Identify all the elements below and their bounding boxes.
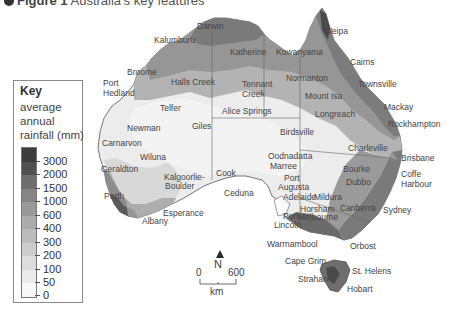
legend-swatch <box>22 189 36 203</box>
place-label: Cook <box>216 169 236 178</box>
place-label: Orbost <box>350 242 376 251</box>
place-label: Melbourne <box>298 213 338 222</box>
place-label: Cairns <box>350 58 375 67</box>
place-label: Harbour <box>401 180 432 189</box>
legend-swatch <box>22 162 36 176</box>
legend-tick-label: 100 <box>43 263 61 275</box>
place-label: Dubbo <box>346 178 371 187</box>
place-label: Hobart <box>347 285 373 294</box>
place-label: Kowanyama <box>276 48 323 57</box>
legend-tick <box>35 282 40 283</box>
legend-tick <box>35 269 40 270</box>
legend-title: Key <box>20 84 42 98</box>
place-label: Longreach <box>315 110 355 119</box>
legend-swatch <box>22 270 36 284</box>
legend-tick-label: 200 <box>43 249 61 261</box>
place-label: Adelaide <box>283 193 316 202</box>
legend-tick-label: 3000 <box>43 155 67 167</box>
legend-tick <box>35 215 40 216</box>
north-arrow-icon <box>216 250 224 258</box>
scale-bar <box>200 279 236 284</box>
place-label: Hedland <box>103 89 135 98</box>
place-label: Kalumburu <box>154 36 195 45</box>
legend-subtitle: average annual rainfall (mm) <box>20 100 84 142</box>
legend-tick <box>35 228 40 229</box>
north-label: N <box>214 260 222 269</box>
place-label: Cape Grim <box>285 257 326 266</box>
place-label: Townsville <box>358 80 397 89</box>
legend-tick-label: 2000 <box>43 168 67 180</box>
place-label: Oodnadatta <box>268 152 312 161</box>
place-label: Ceduna <box>224 189 254 198</box>
place-label: Warrnambool <box>267 240 318 249</box>
legend-tick-label: 1000 <box>43 195 67 207</box>
place-label: Marree <box>270 162 297 171</box>
legend-tick <box>35 201 40 202</box>
place-label: Halls Creek <box>171 78 215 87</box>
legend-swatch <box>22 256 36 270</box>
place-label: Rockhampton <box>388 120 440 129</box>
place-label: Albany <box>142 217 168 226</box>
legend-tick <box>35 161 40 162</box>
legend-tick <box>35 255 40 256</box>
place-label: Sydney <box>383 206 411 215</box>
legend-tick <box>35 188 40 189</box>
legend-swatch <box>22 175 36 189</box>
place-label: Broome <box>127 68 157 77</box>
place-label: Perth <box>104 192 124 201</box>
legend-swatch <box>22 243 36 257</box>
place-label: Giles <box>192 122 211 131</box>
place-label: Mount Isa <box>305 92 342 101</box>
legend-tick-label: 0 <box>43 289 49 301</box>
legend-swatch <box>22 202 36 216</box>
place-label: Augusta <box>278 183 309 192</box>
place-label: Bourke <box>343 165 370 174</box>
place-label: Weipa <box>324 27 348 36</box>
legend-color-ramp <box>21 147 37 298</box>
place-label: Tennant <box>242 80 272 89</box>
place-label: Brisbane <box>401 154 435 163</box>
scale-start: 0 <box>196 268 202 277</box>
scale-end: 600 <box>228 268 245 277</box>
legend-swatch <box>22 229 36 243</box>
place-label: Esperance <box>163 209 204 218</box>
place-label: Telfer <box>160 104 181 113</box>
place-label: Mildura <box>314 193 342 202</box>
legend-tick-label: 50 <box>43 276 55 288</box>
place-label: Coffe <box>401 170 421 179</box>
legend-tick <box>35 242 40 243</box>
legend-tick <box>35 174 40 175</box>
place-label: Wiluna <box>140 153 166 162</box>
legend-tick <box>35 295 40 296</box>
legend-key: Key average annual rainfall (mm) 3000200… <box>13 80 83 303</box>
place-label: Charleville <box>348 144 388 153</box>
scale-unit: km <box>210 287 223 296</box>
legend-swatch <box>22 283 36 297</box>
place-label: Strahan <box>298 275 328 284</box>
place-label: Normanton <box>286 74 328 83</box>
place-label: Port <box>103 79 119 88</box>
place-label: Geraldton <box>101 165 138 174</box>
legend-tick-label: 400 <box>43 222 61 234</box>
legend-tick-label: 300 <box>43 236 61 248</box>
place-label: Birdsville <box>280 128 314 137</box>
legend-swatch <box>22 216 36 230</box>
place-label: Carnarvon <box>102 139 142 148</box>
place-label: Alice Springs <box>222 107 272 116</box>
place-label: Newman <box>127 124 161 133</box>
place-label: Mackay <box>384 103 413 112</box>
place-label: St. Helens <box>352 267 391 276</box>
place-label: Katherine <box>230 48 266 57</box>
legend-tick-label: 600 <box>43 209 61 221</box>
place-label: Lincoln <box>274 221 301 230</box>
legend-tick-label: 1500 <box>43 182 67 194</box>
legend-swatch <box>22 148 36 162</box>
place-label: Darwin <box>197 22 223 31</box>
place-label: Canberra <box>340 204 375 213</box>
place-label: Boulder <box>165 182 194 191</box>
place-label: Creek <box>242 90 265 99</box>
